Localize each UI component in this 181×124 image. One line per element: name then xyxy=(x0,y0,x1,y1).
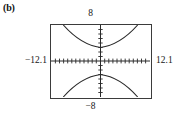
window-ymin-label: −8 xyxy=(0,101,181,112)
window-xmin-label: −12.1 xyxy=(25,55,47,66)
window-xmax-label: 12.1 xyxy=(156,55,173,66)
window-ymax-label: 8 xyxy=(0,8,181,19)
plot-area xyxy=(51,25,150,97)
figure-container: (b) xyxy=(0,0,181,124)
graphing-calculator-window xyxy=(50,24,152,99)
